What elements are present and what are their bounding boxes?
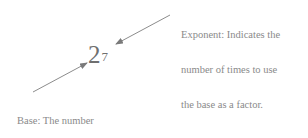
base-number: 2 <box>88 42 101 67</box>
exponent-annotation: Exponent: Indicates the number of times … <box>181 6 280 134</box>
exponent-annotation-line-2: number of times to use <box>181 64 280 76</box>
exponent-annotation-line-3: the base as a factor. <box>181 99 280 111</box>
exponent-number: 7 <box>102 44 109 69</box>
exponent-annotation-line-1: Exponent: Indicates the <box>181 29 280 41</box>
power-expression: 27 <box>88 42 108 67</box>
exponent-diagram: Exponent: Indicates the number of times … <box>0 0 308 138</box>
base-arrow-icon <box>33 63 87 92</box>
exponent-arrow-icon <box>116 15 170 44</box>
base-annotation: Base: The number repeatedly used as a fa… <box>17 92 94 138</box>
base-annotation-line-1: Base: The number <box>17 115 94 127</box>
